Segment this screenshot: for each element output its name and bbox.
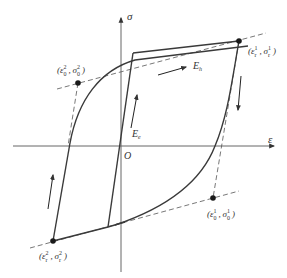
- stress-axis-label: σ: [127, 11, 132, 22]
- upper-hardening-line: [133, 41, 239, 53]
- up-arrow-icon: [48, 175, 53, 209]
- axes: [13, 18, 274, 272]
- hysteresis-diagram: [0, 0, 287, 278]
- left-ascending-line: [53, 143, 70, 241]
- elastic-modulus-label: Ee: [132, 129, 141, 140]
- point-upper-left: [75, 80, 81, 86]
- hardening-arrow-icon: [158, 67, 186, 75]
- direction-arrows: [48, 67, 241, 209]
- label-upper-left: (ε20, σ20): [57, 66, 85, 75]
- down-arrow-icon: [238, 76, 241, 110]
- label-lower-left: (ε2r, σ2r): [39, 252, 67, 261]
- point-upper-right: [236, 38, 242, 44]
- point-lower-right: [210, 195, 216, 201]
- left-dashed-drop: [68, 83, 78, 146]
- hardening-modulus-label: Eh: [193, 61, 202, 72]
- label-lower-right: (ε10, σ10): [207, 210, 235, 219]
- strain-axis-label: ε: [268, 134, 272, 145]
- lower-hardening-line: [53, 222, 125, 241]
- elastic-arrow-icon: [131, 95, 137, 128]
- point-lower-left: [50, 238, 56, 244]
- hardening-modulus-sub: h: [199, 66, 202, 72]
- origin-label: O: [124, 151, 131, 161]
- label-upper-right: (ε1r, σ1r): [248, 47, 276, 56]
- elastic-modulus-sub: e: [138, 134, 141, 140]
